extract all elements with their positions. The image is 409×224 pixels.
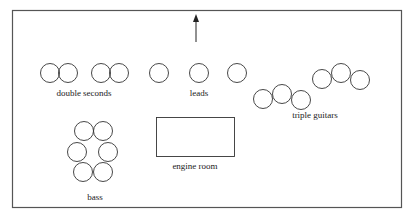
label-bass: bass (87, 192, 103, 202)
bass-drums (68, 122, 118, 182)
label-leads: leads (190, 88, 209, 98)
triple-guitars-drums (254, 64, 370, 110)
double-seconds-drums (41, 64, 129, 83)
direction-arrow (193, 14, 199, 42)
stage-border (13, 11, 402, 208)
stage-diagram (0, 0, 409, 224)
label-triple-guitars: triple guitars (292, 110, 338, 120)
label-double-seconds: double seconds (56, 88, 111, 98)
label-engine-room: engine room (172, 161, 217, 171)
leads-drums (150, 64, 247, 83)
engine-room-box (157, 118, 235, 157)
